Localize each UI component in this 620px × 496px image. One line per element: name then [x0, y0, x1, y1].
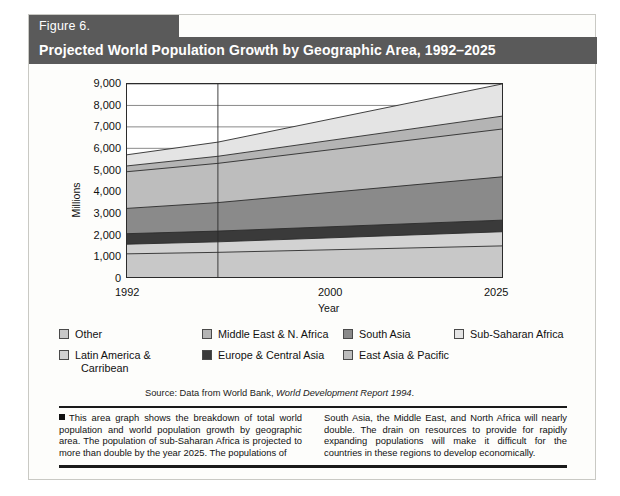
caption-body: This area graph shows the breakdown of t… — [59, 412, 567, 460]
y-tick-2000: 2,000 — [69, 229, 121, 241]
legend-swatch-other — [59, 329, 69, 339]
x-tick-2025: 2025 — [484, 286, 508, 298]
figure-container: Figure 6. Projected World Population Gro… — [28, 14, 596, 480]
legend-item-other[interactable]: Other — [59, 328, 102, 340]
source-note: Source: Data from World Bank, World Deve… — [145, 388, 414, 398]
caption-column-left: This area graph shows the breakdown of t… — [59, 412, 302, 458]
legend-item-latin-america-carribean-line2: Carribean — [81, 362, 128, 374]
y-tick-0: 0 — [69, 272, 121, 284]
legend-swatch-europe-central-asia — [202, 350, 212, 360]
legend-item-middle-east-n-africa[interactable]: Middle East & N. Africa — [202, 328, 328, 340]
chart-legend: Other Middle East & N. Africa South Asia… — [59, 328, 584, 386]
source-citation: World Development Report 1994 — [276, 388, 411, 398]
caption-column-right: South Asia, the Middle East, and North A… — [324, 412, 567, 458]
divider-top — [59, 406, 567, 408]
y-tick-3000: 3,000 — [69, 207, 121, 219]
source-prefix: Source: Data from World Bank, — [145, 388, 276, 398]
figure-title: Projected World Population Growth by Geo… — [29, 37, 597, 64]
x-axis-label: Year — [318, 302, 339, 314]
y-tick-9000: 9,000 — [69, 77, 121, 89]
legend-swatch-latin-america-carribean — [59, 350, 69, 360]
legend-item-south-asia[interactable]: South Asia — [343, 328, 411, 340]
legend-swatch-middle-east-n-africa — [202, 329, 212, 339]
legend-swatch-south-asia — [343, 329, 353, 339]
legend-swatch-sub-saharan-africa — [454, 329, 464, 339]
x-tick-1992: 1992 — [115, 286, 139, 298]
x-tick-2000: 2000 — [318, 286, 342, 298]
square-bullet-icon — [59, 414, 65, 420]
y-tick-1000: 1,000 — [69, 250, 121, 262]
chart-area: Millions 9,000 8,000 7,000 6,000 5,000 4… — [29, 64, 597, 330]
stacked-area-plot — [127, 84, 502, 277]
y-tick-7000: 7,000 — [69, 120, 121, 132]
y-tick-6000: 6,000 — [69, 142, 121, 154]
y-tick-8000: 8,000 — [69, 99, 121, 111]
y-tick-4000: 4,000 — [69, 185, 121, 197]
legend-item-latin-america-carribean[interactable]: Latin America & — [59, 349, 151, 361]
divider-bottom — [59, 465, 567, 468]
y-axis-ticks: 9,000 8,000 7,000 6,000 5,000 4,000 3,00… — [59, 64, 121, 330]
legend-item-europe-central-asia[interactable]: Europe & Central Asia — [202, 349, 324, 361]
y-tick-5000: 5,000 — [69, 164, 121, 176]
figure-number: Figure 6. — [29, 15, 179, 37]
legend-swatch-east-asia-pacific — [343, 350, 353, 360]
legend-item-sub-saharan-africa[interactable]: Sub-Saharan Africa — [454, 328, 564, 340]
plot-frame — [126, 83, 503, 278]
legend-item-east-asia-pacific[interactable]: East Asia & Pacific — [343, 349, 449, 361]
caption-text-left: This area graph shows the breakdown of t… — [59, 412, 302, 458]
source-suffix: . — [411, 388, 414, 398]
